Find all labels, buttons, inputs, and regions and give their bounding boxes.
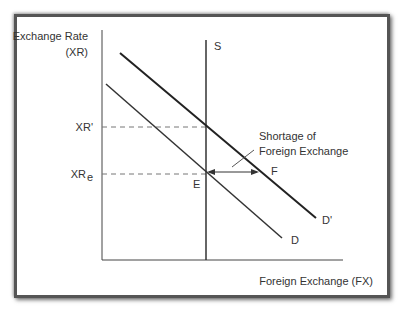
supply-label: S	[214, 40, 221, 52]
equilibrium-label: E	[193, 178, 200, 190]
annotation-leader-line	[232, 150, 254, 167]
demand-shifted-label: D'	[322, 214, 332, 226]
x-axis-label: Foreign Exchange (FX)	[259, 275, 373, 287]
xr-e-subscript: e	[87, 171, 93, 183]
y-axis-label-line2: (XR)	[65, 46, 88, 58]
annotation-line2: Foreign Exchange	[259, 145, 348, 157]
point-f-label: F	[271, 165, 278, 177]
demand-label: D	[291, 234, 299, 246]
xr-e-label: XR	[71, 168, 86, 180]
xr-prime-label: XR'	[76, 121, 93, 133]
y-axis-label-line1: Exchange Rate	[13, 30, 88, 42]
annotation-line1: Shortage of	[259, 130, 317, 142]
exchange-rate-diagram: Exchange Rate (XR) Foreign Exchange (FX)…	[0, 0, 401, 309]
demand-curve	[106, 84, 282, 238]
